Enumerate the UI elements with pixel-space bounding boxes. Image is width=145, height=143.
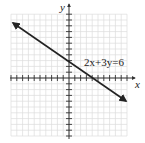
equation-label: 2x+3y=6 <box>84 56 124 68</box>
coordinate-plane: x y 2x+3y=6 <box>0 0 145 143</box>
y-axis-label: y <box>59 1 65 13</box>
x-axis-label: x <box>134 78 140 90</box>
